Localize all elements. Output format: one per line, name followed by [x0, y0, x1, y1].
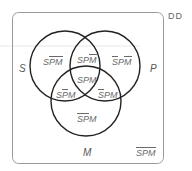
region-label-sm: SPM	[56, 90, 76, 100]
venn-diagram-canvas	[0, 0, 192, 171]
region-letter: M	[68, 90, 76, 100]
region-letter: M	[124, 57, 132, 67]
corner-label-dd: DD	[168, 11, 183, 21]
set-label-m: M	[83, 148, 91, 158]
set-label-s: S	[19, 64, 26, 74]
region-label-pm: SPM	[98, 90, 118, 100]
region-letter: M	[89, 75, 97, 85]
region-label-spm: SPM	[77, 75, 97, 85]
region-label-outside: SPM	[136, 148, 156, 158]
region-letter: M	[89, 55, 97, 65]
region-letter: M	[55, 57, 63, 67]
region-letter: M	[148, 148, 156, 158]
region-letter: M	[110, 90, 118, 100]
region-label-s-only: SPM	[43, 57, 63, 67]
region-label-p-only: SPM	[112, 57, 132, 67]
region-label-sp: SPM	[77, 55, 97, 65]
region-letter: M	[89, 114, 97, 124]
region-label-m-only: SPM	[77, 114, 97, 124]
set-label-p: P	[150, 64, 157, 74]
